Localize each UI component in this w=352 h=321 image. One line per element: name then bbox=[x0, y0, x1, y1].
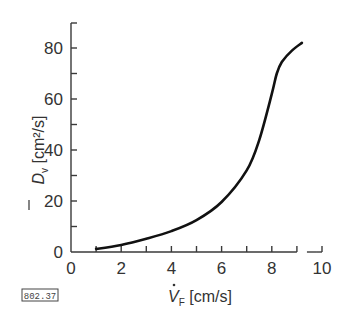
svg-text:VF [cm/s]: VF [cm/s] bbox=[168, 288, 232, 308]
x-axis-title-unit: [cm/s] bbox=[185, 288, 232, 305]
x-axis-title-dot bbox=[173, 284, 176, 287]
x-tick-label: 0 bbox=[66, 259, 75, 278]
tick-labels: 0204060800246810 bbox=[44, 39, 331, 278]
y-tick-label: 80 bbox=[44, 39, 63, 58]
y-tick-label: 0 bbox=[54, 243, 63, 262]
figure-id: 802.37 bbox=[24, 292, 56, 302]
y-tick-label: 60 bbox=[44, 90, 63, 109]
figure-id-box: 802.37 bbox=[22, 289, 58, 302]
x-tick-label: 10 bbox=[313, 259, 332, 278]
y-tick-label: 20 bbox=[44, 192, 63, 211]
y-axis-title-main: D bbox=[30, 173, 47, 185]
x-tick-label: 6 bbox=[217, 259, 226, 278]
x-axis-title: VF [cm/s] bbox=[168, 284, 232, 308]
y-axis-title-unit: [cm²/s] bbox=[30, 116, 47, 168]
x-tick-label: 4 bbox=[167, 259, 176, 278]
x-tick-label: 2 bbox=[116, 259, 125, 278]
chart: 0204060800246810 Dv [cm²/s] VF [cm/s] 80… bbox=[0, 0, 352, 321]
data-curve bbox=[96, 43, 302, 249]
x-tick-label: 8 bbox=[267, 259, 276, 278]
